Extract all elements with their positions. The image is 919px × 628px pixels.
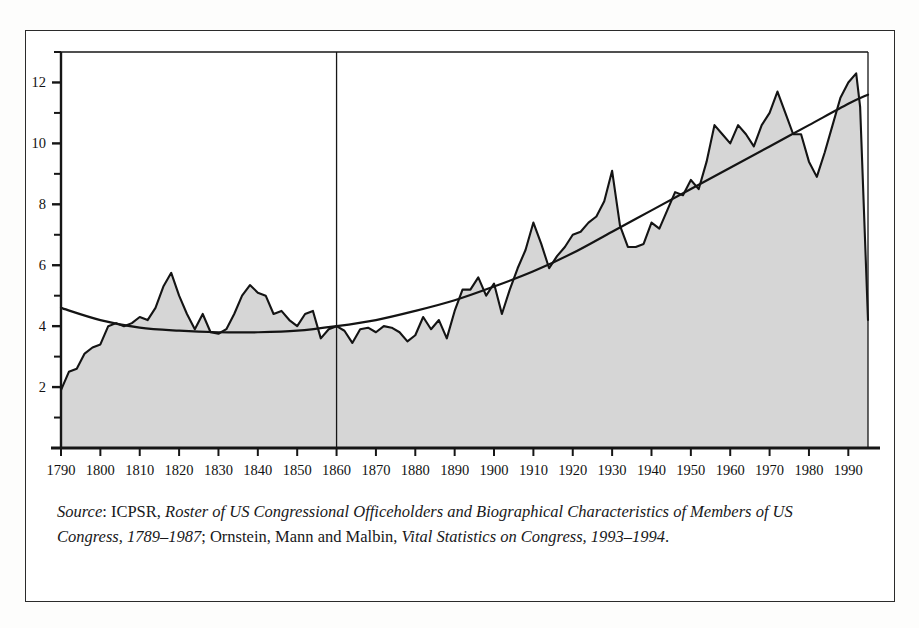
caption-text-3: .	[665, 527, 669, 546]
y-axis-tick-label: 4	[39, 318, 47, 334]
x-axis-tick-label: 1870	[361, 462, 390, 478]
x-axis-tick-label: 1920	[558, 462, 587, 478]
x-axis-tick-label: 1980	[794, 462, 823, 478]
x-axis-tick-label: 1950	[676, 462, 705, 478]
x-axis-tick-label: 1800	[86, 462, 115, 478]
series-area-fill	[61, 73, 868, 448]
x-axis-tick-label: 1840	[243, 462, 272, 478]
x-axis-tick-label: 1970	[755, 462, 784, 478]
x-axis-tick-label: 1900	[480, 462, 509, 478]
y-axis-tick-label: 6	[39, 257, 46, 273]
caption-text-1: : ICPSR,	[102, 502, 165, 521]
x-axis-tick-label: 1830	[204, 462, 233, 478]
area-fill-path	[61, 73, 868, 448]
y-axis-tick-label: 8	[39, 196, 46, 212]
figure-caption: Source: ICPSR, Roster of US Congressiona…	[57, 500, 847, 550]
x-axis-tick-label: 1990	[834, 462, 863, 478]
y-axis-tick-label: 2	[39, 379, 46, 395]
caption-italic-2: Vital Statistics on Congress, 1993–1994	[402, 527, 666, 546]
caption-text-2: ; Ornstein, Mann and Malbin,	[201, 527, 401, 546]
chart-plot-area: 24681012 1790180018101820183018401850186…	[0, 0, 919, 500]
y-axis-tick-label: 12	[32, 74, 47, 90]
x-axis-tick-label: 1810	[125, 462, 154, 478]
x-axis-tick-label: 1940	[637, 462, 666, 478]
x-axis-tick-label: 1820	[165, 462, 194, 478]
x-axis-tick-label: 1880	[401, 462, 430, 478]
x-axis-tick-label: 1850	[283, 462, 312, 478]
x-axis-tick-label: 1890	[440, 462, 469, 478]
x-axis-tick-label: 1790	[47, 462, 76, 478]
x-axis-tick-label: 1960	[716, 462, 745, 478]
caption-source-label: Source	[57, 502, 102, 521]
x-axis-tick-label: 1910	[519, 462, 548, 478]
y-axis-tick-labels: 24681012	[32, 74, 47, 395]
x-axis-tick-labels: 1790180018101820183018401850186018701880…	[47, 462, 863, 478]
y-axis-tick-label: 10	[32, 135, 47, 151]
x-axis-tick-label: 1860	[322, 462, 351, 478]
figure-container: 24681012 1790180018101820183018401850186…	[0, 0, 919, 628]
x-axis-tick-label: 1930	[598, 462, 627, 478]
chart-svg: 24681012 1790180018101820183018401850186…	[0, 0, 919, 500]
